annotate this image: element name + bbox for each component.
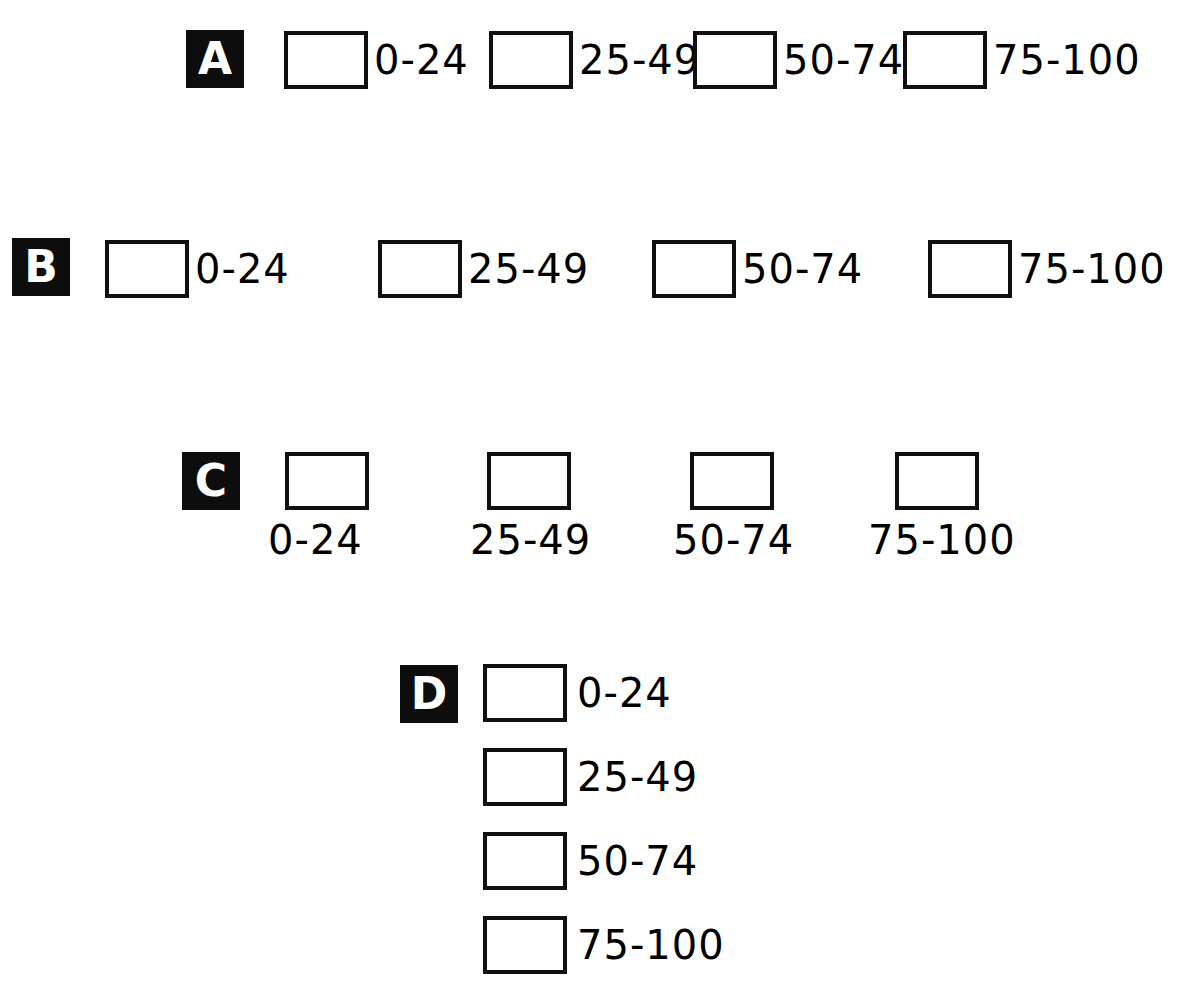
panel-badge-d: D — [400, 665, 458, 723]
legend-label: 50-74 — [577, 832, 698, 890]
legend-label: 75-100 — [577, 916, 725, 974]
legend-swatch — [483, 916, 567, 974]
panel-d: D 0-24 25-49 50-74 75-100 — [0, 0, 1194, 992]
legend-swatch — [483, 748, 567, 806]
legend-swatch — [483, 664, 567, 722]
legend-label: 0-24 — [577, 664, 672, 722]
legend-layout-figure: A 0-24 25-49 50-74 75-100 B 0-24 25-49 5… — [0, 0, 1194, 992]
legend-swatch — [483, 832, 567, 890]
legend-label: 25-49 — [577, 748, 698, 806]
